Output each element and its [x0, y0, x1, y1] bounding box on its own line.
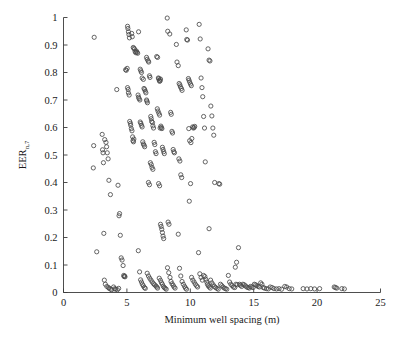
data-point — [106, 157, 110, 161]
data-point — [136, 30, 140, 34]
data-point — [101, 161, 105, 165]
y-tick-label: 0.4 — [44, 177, 58, 188]
data-point — [206, 47, 210, 51]
data-point — [165, 266, 169, 270]
data-point — [198, 37, 202, 41]
x-tick-label: 5 — [124, 297, 129, 308]
x-tick-label: 0 — [61, 297, 66, 308]
y-tick-label: 0.1 — [44, 260, 57, 271]
data-point — [199, 76, 203, 80]
data-point — [203, 160, 207, 164]
y-tick-label: 0.2 — [44, 232, 57, 243]
data-point — [196, 251, 200, 255]
data-point — [91, 166, 95, 170]
figure-container: 00.10.20.30.40.50.60.70.80.910510152025M… — [0, 0, 409, 338]
data-point — [213, 180, 217, 184]
data-point — [92, 144, 96, 148]
data-point — [92, 35, 96, 39]
data-point — [115, 87, 119, 91]
data-point — [207, 227, 211, 231]
axes-group — [64, 18, 381, 293]
y-axis-title-text: EERn,7 — [17, 140, 30, 169]
data-point — [101, 151, 105, 155]
y-tick-label: 1 — [52, 12, 57, 23]
data-point — [209, 104, 213, 108]
data-point — [174, 42, 178, 46]
data-point — [180, 175, 184, 179]
data-point — [102, 278, 106, 282]
y-tick-label: 0.5 — [44, 150, 57, 161]
y-axis-title-subscript: n,7 — [23, 140, 30, 149]
data-point — [108, 193, 112, 197]
data-point — [211, 126, 215, 130]
data-point — [137, 270, 141, 274]
data-point — [100, 132, 104, 136]
x-tick-label: 10 — [185, 297, 196, 308]
data-point — [102, 231, 106, 235]
data-point — [168, 275, 172, 279]
data-point — [187, 199, 191, 203]
data-point — [136, 249, 140, 253]
x-tick-label: 15 — [248, 297, 259, 308]
data-point — [105, 145, 109, 149]
data-point — [116, 183, 120, 187]
data-point — [167, 271, 171, 275]
data-point — [200, 86, 204, 90]
data-point — [177, 266, 181, 270]
x-tick-label: 20 — [312, 297, 323, 308]
data-point — [201, 95, 205, 99]
data-point — [234, 260, 238, 264]
data-point — [165, 16, 169, 20]
data-point — [105, 151, 109, 155]
data-point — [318, 287, 322, 291]
data-point — [197, 22, 201, 26]
data-point — [179, 173, 183, 177]
data-point — [121, 263, 125, 267]
data-point — [95, 250, 99, 254]
data-point — [184, 28, 188, 32]
data-point — [236, 246, 240, 250]
data-point — [210, 114, 214, 118]
data-point — [162, 237, 166, 241]
data-points-group — [91, 16, 346, 292]
scatter-plot: 00.10.20.30.40.50.60.70.80.910510152025M… — [0, 0, 409, 338]
y-axis-title: EERn,7 — [17, 140, 30, 169]
data-point — [202, 126, 206, 130]
data-point — [118, 233, 122, 237]
data-point — [202, 114, 206, 118]
data-point — [290, 287, 294, 291]
x-tick-label: 25 — [375, 297, 386, 308]
data-point — [188, 182, 192, 186]
y-tick-label: 0.7 — [44, 95, 57, 106]
y-tick-label: 0.6 — [44, 122, 57, 133]
data-point — [196, 285, 200, 289]
data-point — [179, 274, 183, 278]
y-tick-label: 0 — [52, 287, 57, 298]
y-tick-label: 0.3 — [44, 205, 57, 216]
data-point — [226, 273, 230, 277]
x-axis-title: Minimum well spacing (m) — [164, 314, 280, 326]
data-point — [342, 287, 346, 291]
data-point — [176, 232, 180, 236]
data-point — [107, 178, 111, 182]
y-tick-label: 0.8 — [44, 67, 57, 78]
data-point — [212, 133, 216, 137]
y-tick-label: 0.9 — [44, 40, 57, 51]
data-point — [233, 265, 237, 269]
